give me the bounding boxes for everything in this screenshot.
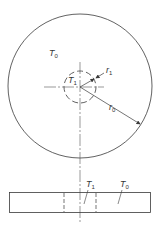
inner-region-label: T1	[68, 76, 77, 86]
side-inner-label: T1	[86, 180, 95, 190]
inner-radius-arrow	[80, 79, 94, 87]
side-outer-label: T0	[120, 180, 129, 190]
inner-radius-label: r1	[106, 66, 112, 76]
outer-region-label: T0	[49, 49, 58, 59]
diagram-canvas	[0, 0, 159, 228]
inner-radius-leader	[96, 73, 104, 78]
outer-radius-label: r0	[109, 103, 115, 113]
